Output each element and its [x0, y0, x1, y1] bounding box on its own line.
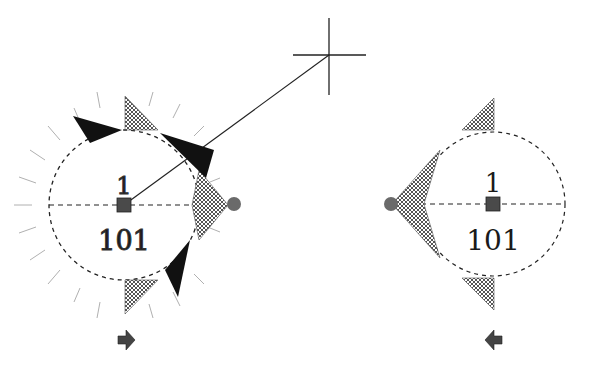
rotation-handle-bottom-right[interactable] [165, 240, 190, 297]
hatched-wedge-bottom [462, 278, 494, 310]
rotation-handle-top-right[interactable] [160, 133, 214, 178]
node-bottom-label: 101 [466, 224, 519, 257]
arrow-right-icon[interactable] [118, 330, 135, 350]
center-handle[interactable] [486, 197, 500, 211]
rotation-handle-top-left[interactable] [73, 116, 122, 143]
connection-handle[interactable] [384, 197, 398, 211]
hatched-wedge-right [192, 170, 228, 240]
diagram-canvas[interactable]: 1 101 1 101 [0, 0, 589, 368]
center-handle[interactable] [117, 198, 131, 212]
hatched-wedge-top [125, 96, 158, 130]
right-node[interactable]: 1 101 [384, 98, 565, 350]
hatched-wedge-bottom [125, 280, 158, 314]
node-top-label: 1 [485, 168, 502, 198]
node-top-label: 1 [116, 172, 131, 200]
node-bottom-label: 101 [98, 225, 150, 256]
connection-handle[interactable] [227, 197, 241, 211]
hatched-wedge-top [462, 98, 494, 130]
arrow-left-icon[interactable] [485, 330, 502, 350]
left-node[interactable]: 1 101 [14, 92, 241, 350]
crosshair-icon[interactable] [293, 18, 366, 95]
